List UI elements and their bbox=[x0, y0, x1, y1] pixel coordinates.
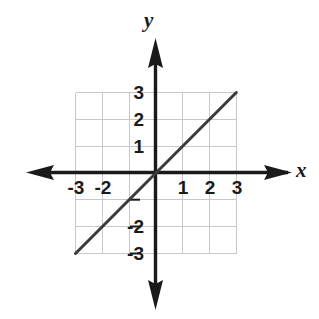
y-tick-label-neg2: -2 bbox=[110, 217, 144, 236]
y-axis-arrow-down bbox=[148, 280, 163, 310]
x-tick-label-3: 3 bbox=[221, 178, 253, 197]
graph-canvas bbox=[0, 0, 319, 319]
x-axis-arrow-left bbox=[26, 165, 54, 180]
y-axis-arrow-up bbox=[148, 38, 163, 68]
x-tick-label-neg2: -2 bbox=[87, 178, 119, 197]
y-tick-label-1: 1 bbox=[114, 137, 144, 156]
y-tick-label-3: 3 bbox=[114, 83, 144, 102]
y-tick-label-neg3: -3 bbox=[110, 244, 144, 263]
x-axis-arrow-right bbox=[264, 165, 292, 180]
y-tick-label-2: 2 bbox=[114, 110, 144, 129]
y-axis-label: y bbox=[144, 10, 153, 31]
coordinate-plane-figure: y x -3 -2 1 2 3 3 2 1 -2 -3 bbox=[0, 0, 319, 319]
x-axis-label: x bbox=[296, 160, 307, 181]
